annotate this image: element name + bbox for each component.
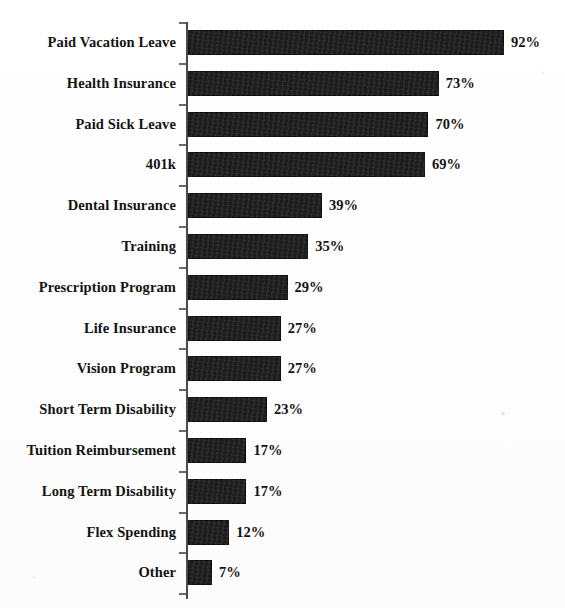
bar-value-label: 17% [253,438,282,463]
bar-value-label: 39% [329,193,358,218]
bar[interactable] [188,193,322,218]
bar-row[interactable]: Life Insurance27% [0,308,565,349]
axis-tick [179,593,186,595]
category-label: Health Insurance [0,63,176,104]
bar[interactable] [188,397,267,422]
bar[interactable] [188,112,428,137]
category-label: Long Term Disability [0,471,176,512]
bar[interactable] [188,520,229,545]
bar[interactable] [188,560,212,585]
category-label: Paid Vacation Leave [0,22,176,63]
bar-value-label: 17% [253,479,282,504]
bar-row[interactable]: Flex Spending12% [0,512,565,553]
category-label: Short Term Disability [0,389,176,430]
category-label: Tuition Reimbursement [0,430,176,471]
bar-row[interactable]: Health Insurance73% [0,63,565,104]
category-label: Prescription Program [0,267,176,308]
bar-row[interactable]: Short Term Disability23% [0,389,565,430]
bar-value-label: 29% [295,275,324,300]
category-label: Life Insurance [0,308,176,349]
category-label: Training [0,226,176,267]
bar[interactable] [188,275,288,300]
bar-value-label: 69% [432,152,461,177]
bar-row[interactable]: Vision Program27% [0,348,565,389]
bar[interactable] [188,30,504,55]
category-label: Other [0,552,176,593]
bar-row[interactable]: Dental Insurance39% [0,185,565,226]
bar-chart: Paid Vacation Leave92%Health Insurance73… [0,0,565,608]
category-label: Dental Insurance [0,185,176,226]
bar-value-label: 35% [315,234,344,259]
bar-value-label: 23% [274,397,303,422]
bar[interactable] [188,479,246,504]
bar-value-label: 73% [446,71,475,96]
bar-value-label: 12% [236,520,265,545]
category-label: 401k [0,144,176,185]
plot-area: Paid Vacation Leave92%Health Insurance73… [0,0,565,608]
bar-value-label: 92% [511,30,540,55]
bar-row[interactable]: Training35% [0,226,565,267]
bar[interactable] [188,438,246,463]
bar-row[interactable]: Prescription Program29% [0,267,565,308]
bar[interactable] [188,356,281,381]
bar-row[interactable]: Other7% [0,552,565,593]
bar[interactable] [188,234,308,259]
bar-row[interactable]: Paid Sick Leave70% [0,104,565,145]
bar-row[interactable]: Tuition Reimbursement17% [0,430,565,471]
bar-value-label: 27% [288,316,317,341]
bar[interactable] [188,152,425,177]
bar-value-label: 7% [219,560,241,585]
bar-row[interactable]: Long Term Disability17% [0,471,565,512]
bar-value-label: 27% [288,356,317,381]
bar[interactable] [188,316,281,341]
bar-row[interactable]: 401k69% [0,144,565,185]
bar-value-label: 70% [435,112,464,137]
category-label: Vision Program [0,348,176,389]
category-label: Paid Sick Leave [0,104,176,145]
bar-row[interactable]: Paid Vacation Leave92% [0,22,565,63]
category-label: Flex Spending [0,512,176,553]
bar[interactable] [188,71,439,96]
